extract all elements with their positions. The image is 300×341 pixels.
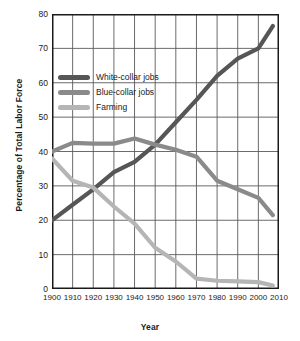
y-axis-tick-labels: 01020304050607080 <box>20 0 48 341</box>
plot-area <box>52 14 279 289</box>
legend-label: Blue-collar jobs <box>96 87 154 97</box>
x-tick-label-1940: 1940 <box>126 293 144 302</box>
legend-label: White-collar jobs <box>96 72 159 82</box>
y-tick-label-70: 70 <box>22 43 48 53</box>
x-tick-label-2000: 2000 <box>249 293 267 302</box>
legend-item-farming: Farming <box>58 101 178 113</box>
x-tick-label-1900: 1900 <box>43 293 61 302</box>
y-tick-label-50: 50 <box>22 112 48 122</box>
legend-swatch-icon <box>58 75 90 80</box>
series-line-blue-collar-jobs <box>52 138 273 215</box>
x-tick-label-2010: 2010 <box>270 293 288 302</box>
y-tick-label-60: 60 <box>22 78 48 88</box>
y-tick-label-40: 40 <box>22 147 48 157</box>
x-tick-label-1910: 1910 <box>64 293 82 302</box>
legend-item-white-collar-jobs: White-collar jobs <box>58 71 178 83</box>
legend-label: Farming <box>96 102 127 112</box>
y-tick-label-10: 10 <box>22 250 48 260</box>
x-tick-label-1990: 1990 <box>229 293 247 302</box>
legend-swatch-icon <box>58 105 90 110</box>
y-tick-label-20: 20 <box>22 215 48 225</box>
chart-figure: Percentage of Total Labor Force 01020304… <box>0 0 300 341</box>
x-tick-label-1970: 1970 <box>188 293 206 302</box>
chart-legend: White-collar jobsBlue-collar jobsFarming <box>58 71 178 116</box>
x-tick-label-1920: 1920 <box>84 293 102 302</box>
x-axis-title: Year <box>0 322 300 332</box>
legend-swatch-icon <box>58 90 90 95</box>
y-tick-label-80: 80 <box>22 9 48 19</box>
legend-item-blue-collar-jobs: Blue-collar jobs <box>58 86 178 98</box>
x-tick-label-1960: 1960 <box>167 293 185 302</box>
series-line-farming <box>52 158 273 285</box>
x-tick-label-1950: 1950 <box>146 293 164 302</box>
y-tick-label-30: 30 <box>22 181 48 191</box>
x-tick-label-1980: 1980 <box>208 293 226 302</box>
plot-svg <box>52 14 279 289</box>
x-tick-label-1930: 1930 <box>105 293 123 302</box>
